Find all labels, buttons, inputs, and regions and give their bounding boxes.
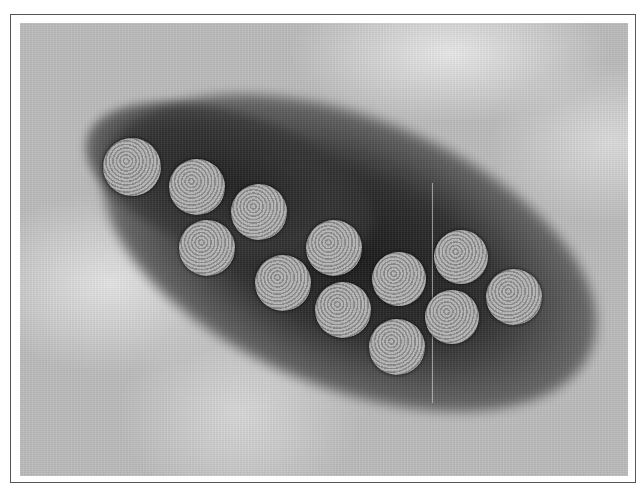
virus-particle (486, 269, 542, 325)
virus-particle (425, 290, 479, 344)
electron-micrograph (20, 23, 628, 476)
virus-particle (306, 220, 362, 276)
virus-particle (434, 230, 488, 284)
virus-particle (231, 184, 287, 240)
virus-particle (255, 255, 311, 311)
virus-particle (372, 252, 426, 306)
virus-particle (315, 282, 371, 338)
virus-particle (169, 159, 225, 215)
virus-particle (179, 220, 235, 276)
virus-particle (369, 319, 425, 375)
image-frame (10, 14, 636, 483)
film-scratch (432, 183, 433, 403)
virus-particle (103, 138, 161, 196)
